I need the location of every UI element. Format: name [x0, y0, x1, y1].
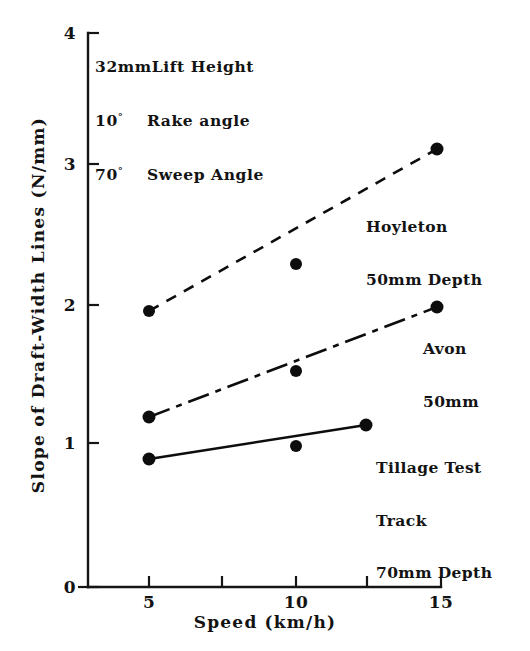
note-sweep-angle-text: Sweep Angle	[147, 165, 264, 184]
note-sweep-number: 70	[95, 165, 118, 184]
chart-figure: 4 3 2 1 0 5 10 15 Speed (km/h) Slope of …	[0, 0, 530, 651]
series-label-avon-line2: 50mm	[423, 393, 479, 411]
note-rake-angle-text: Rake angle	[147, 111, 250, 130]
data-point	[360, 419, 373, 432]
series-label-avon-line1: Avon	[423, 340, 479, 358]
y-tick-label-3: 3	[44, 154, 76, 174]
data-point	[143, 411, 156, 424]
y-tick-label-0: 0	[44, 577, 76, 597]
note-lift-height: 32mmLift Height	[95, 58, 264, 76]
data-point	[290, 258, 302, 270]
note-lift-height-text: Lift Height	[152, 57, 254, 76]
series-label-tillage: Tillage Test Track 70mm Depth	[376, 424, 492, 617]
x-tick-label-10: 10	[284, 592, 308, 612]
y-axis-label-wrapper: Slope of Draft-Width Lines (N/mm)	[28, 5, 48, 605]
note-sweep-angle: 70°Sweep Angle	[95, 166, 264, 184]
conditions-annotation: 32mmLift Height 10°Rake angle 70°Sweep A…	[95, 22, 264, 220]
degree-symbol-icon: °	[118, 111, 124, 122]
data-point	[431, 143, 444, 156]
note-sweep-angle-value: 70°	[95, 166, 147, 184]
series-label-hoyleton-line2: 50mm Depth	[366, 271, 482, 289]
y-axis-label: Slope of Draft-Width Lines (N/mm)	[28, 117, 48, 493]
series-line-avon	[149, 307, 437, 417]
series-label-hoyleton-line1: Hoyleton	[366, 218, 482, 236]
series-label-hoyleton: Hoyleton 50mm Depth	[366, 183, 482, 323]
series-line-tillage	[149, 425, 366, 459]
degree-symbol-icon: °	[118, 165, 124, 176]
y-tick-label-1: 1	[44, 433, 76, 453]
data-point	[143, 305, 155, 317]
note-rake-number: 10	[95, 111, 118, 130]
y-tick-label-4: 4	[44, 23, 76, 43]
data-point	[290, 365, 302, 377]
series-label-tillage-line2: Track	[376, 512, 492, 530]
data-point	[143, 453, 156, 466]
series-label-tillage-line3: 70mm Depth	[376, 564, 492, 582]
series-label-tillage-line1: Tillage Test	[376, 459, 492, 477]
note-rake-angle-value: 10°	[95, 112, 147, 130]
data-point	[290, 440, 302, 452]
x-tick-label-5: 5	[143, 592, 155, 612]
y-tick-label-2: 2	[44, 295, 76, 315]
note-rake-angle: 10°Rake angle	[95, 112, 264, 130]
note-lift-height-value: 32mm	[95, 58, 152, 76]
